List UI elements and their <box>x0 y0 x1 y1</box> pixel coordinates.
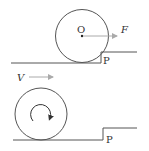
center-dot <box>81 35 83 37</box>
figure-1: O F P <box>11 10 137 67</box>
corner-label-p: P <box>106 134 113 145</box>
wheel-circle <box>15 88 67 140</box>
physics-diagram: O F P V P <box>0 0 149 151</box>
figure-2: V P <box>13 72 137 145</box>
force-label: F <box>120 24 129 35</box>
velocity-label: V <box>17 72 26 83</box>
corner-label-p: P <box>103 55 110 66</box>
rotation-arrow-icon <box>31 105 51 121</box>
center-label: O <box>77 24 85 35</box>
